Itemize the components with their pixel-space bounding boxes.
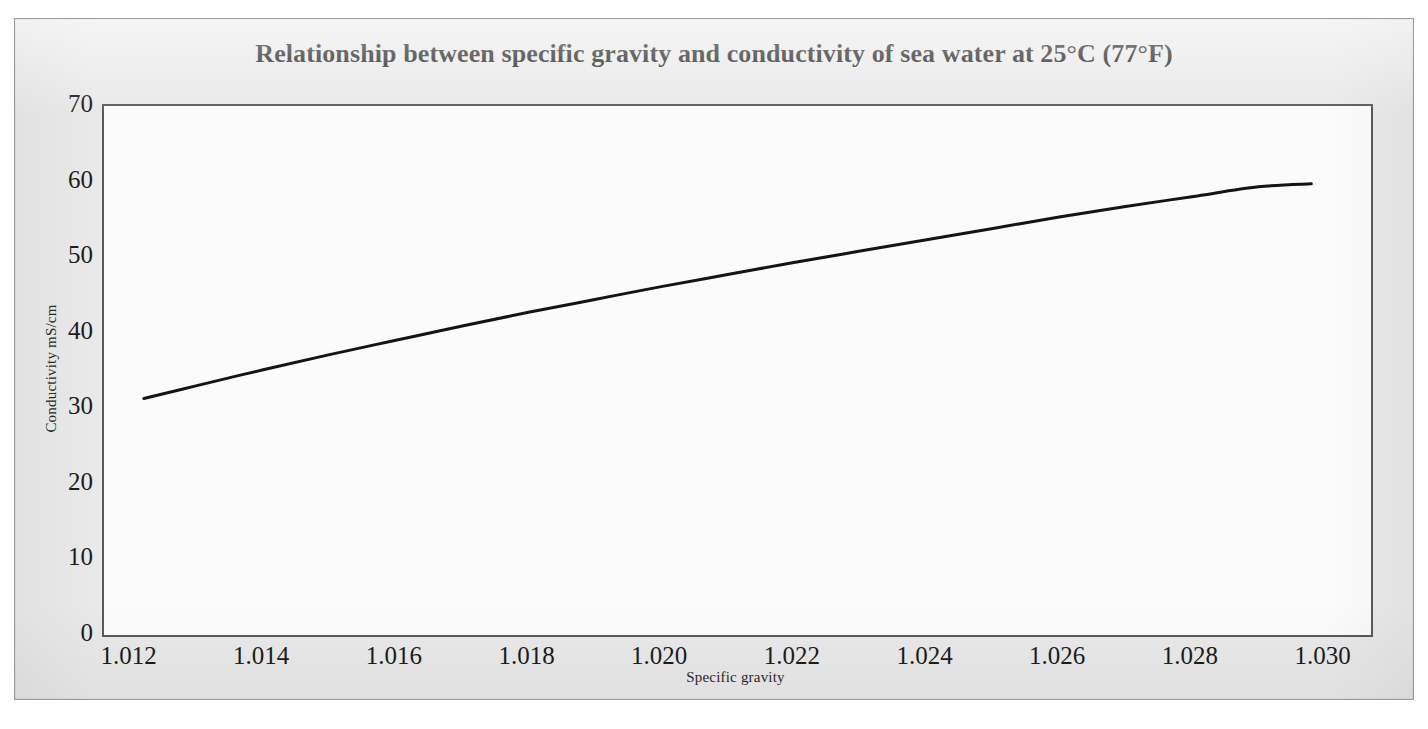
data-series-line xyxy=(144,184,1312,399)
x-tick-label: 1.030 xyxy=(1253,642,1393,670)
y-axis-tick-labels: 010203040506070 xyxy=(23,104,93,633)
y-tick-label: 10 xyxy=(33,543,93,571)
x-tick-label: 1.012 xyxy=(59,642,199,670)
x-tick-label: 1.014 xyxy=(191,642,331,670)
figure-panel: Relationship between specific gravity an… xyxy=(14,18,1414,700)
y-tick-label: 20 xyxy=(33,468,93,496)
y-tick-label: 70 xyxy=(33,90,93,118)
x-tick-label: 1.028 xyxy=(1120,642,1260,670)
x-tick-label: 1.026 xyxy=(987,642,1127,670)
x-tick-label: 1.018 xyxy=(457,642,597,670)
x-tick-label: 1.024 xyxy=(855,642,995,670)
y-tick-label: 40 xyxy=(33,317,93,345)
x-axis-label: Specific gravity xyxy=(102,669,1369,686)
y-tick-label: 30 xyxy=(33,392,93,420)
y-tick-label: 60 xyxy=(33,166,93,194)
plot-area xyxy=(102,104,1373,637)
chart-title: Relationship between specific gravity an… xyxy=(15,39,1413,69)
x-tick-label: 1.016 xyxy=(324,642,464,670)
plot-curve-svg xyxy=(104,106,1371,635)
y-tick-label: 50 xyxy=(33,241,93,269)
x-tick-label: 1.020 xyxy=(589,642,729,670)
x-tick-label: 1.022 xyxy=(722,642,862,670)
